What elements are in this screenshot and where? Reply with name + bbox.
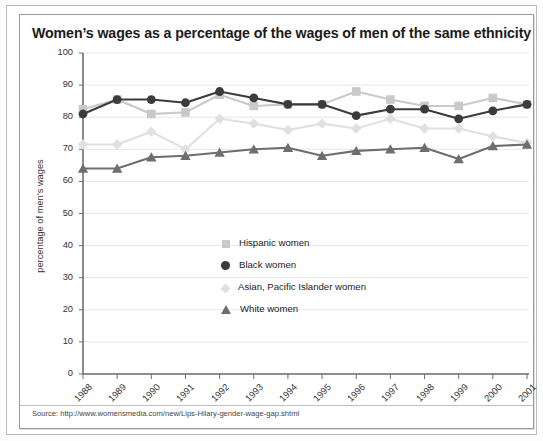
y-axis-tick-label: 90	[49, 79, 73, 89]
data-point-circle	[147, 95, 156, 104]
y-axis-tick-label: 80	[49, 111, 73, 121]
data-point-circle	[79, 110, 88, 119]
series-asian-pacific-islander-women	[78, 114, 532, 155]
data-point-square	[181, 108, 190, 117]
data-point-circle	[215, 87, 224, 96]
data-point-diamond	[488, 131, 498, 141]
data-point-diamond	[419, 123, 429, 133]
series-white-women	[78, 139, 532, 172]
data-point-diamond	[317, 118, 327, 128]
line-chart-svg	[20, 15, 535, 430]
data-point-square	[249, 102, 258, 111]
y-axis-tick-label: 30	[49, 272, 73, 282]
legend-label: Hispanic women	[239, 237, 309, 248]
data-point-diamond	[249, 118, 259, 128]
series-hispanic-women	[79, 87, 532, 118]
legend-marker-triangle-icon	[221, 305, 231, 314]
data-point-diamond	[112, 139, 122, 149]
y-axis-tick-label: 10	[49, 336, 73, 346]
data-point-diamond	[351, 123, 361, 133]
data-point-diamond	[78, 139, 88, 149]
data-point-diamond	[453, 123, 463, 133]
source-citation: Source: http://www.womensmedia.com/new/L…	[32, 409, 299, 418]
data-point-square	[147, 110, 156, 119]
y-axis-tick-label: 60	[49, 175, 73, 185]
data-point-circle	[420, 105, 429, 114]
data-point-circle	[454, 114, 463, 123]
legend-marker-square-icon	[222, 240, 230, 248]
data-point-circle	[386, 105, 395, 114]
data-point-circle	[352, 111, 361, 120]
y-axis-tick-label: 70	[49, 143, 73, 153]
legend-entry[interactable]: Hispanic women	[220, 237, 309, 248]
data-point-circle	[113, 95, 122, 104]
legend-entry[interactable]: White women	[220, 303, 298, 314]
y-axis-tick-label: 100	[49, 47, 73, 57]
data-point-circle	[523, 100, 532, 109]
data-point-square	[454, 102, 463, 111]
data-point-diamond	[385, 114, 395, 124]
legend-label: White women	[240, 303, 298, 314]
figure-card: Women’s wages as a percentage of the wag…	[19, 14, 534, 429]
data-point-square	[489, 94, 498, 103]
legend-entry[interactable]: Asian, Pacific Islander women	[220, 281, 366, 292]
data-point-square	[386, 95, 395, 104]
data-point-diamond	[146, 126, 156, 136]
data-point-circle	[488, 106, 497, 115]
legend-label: Black women	[239, 259, 296, 270]
data-point-circle	[249, 94, 258, 103]
data-point-square	[352, 87, 361, 96]
data-point-diamond	[283, 125, 293, 135]
legend-marker-circle-icon	[221, 261, 230, 270]
data-point-circle	[284, 100, 293, 109]
legend-entry[interactable]: Black women	[220, 259, 296, 270]
y-axis-tick-label: 40	[49, 240, 73, 250]
data-point-circle	[318, 100, 327, 109]
plot-area: 0102030405060708090100percentage of men’…	[20, 15, 533, 428]
legend-label: Asian, Pacific Islander women	[238, 281, 366, 292]
source-divider	[20, 405, 533, 406]
y-axis-tick-label: 20	[49, 304, 73, 314]
legend-marker-diamond-icon	[221, 284, 231, 294]
screenshot-root: Women’s wages as a percentage of the wag…	[0, 0, 543, 441]
y-axis-tick-label: 0	[49, 368, 73, 378]
y-axis-title: percentage of men’s wages	[35, 136, 45, 296]
y-axis-tick-label: 50	[49, 208, 73, 218]
data-point-circle	[181, 98, 190, 107]
